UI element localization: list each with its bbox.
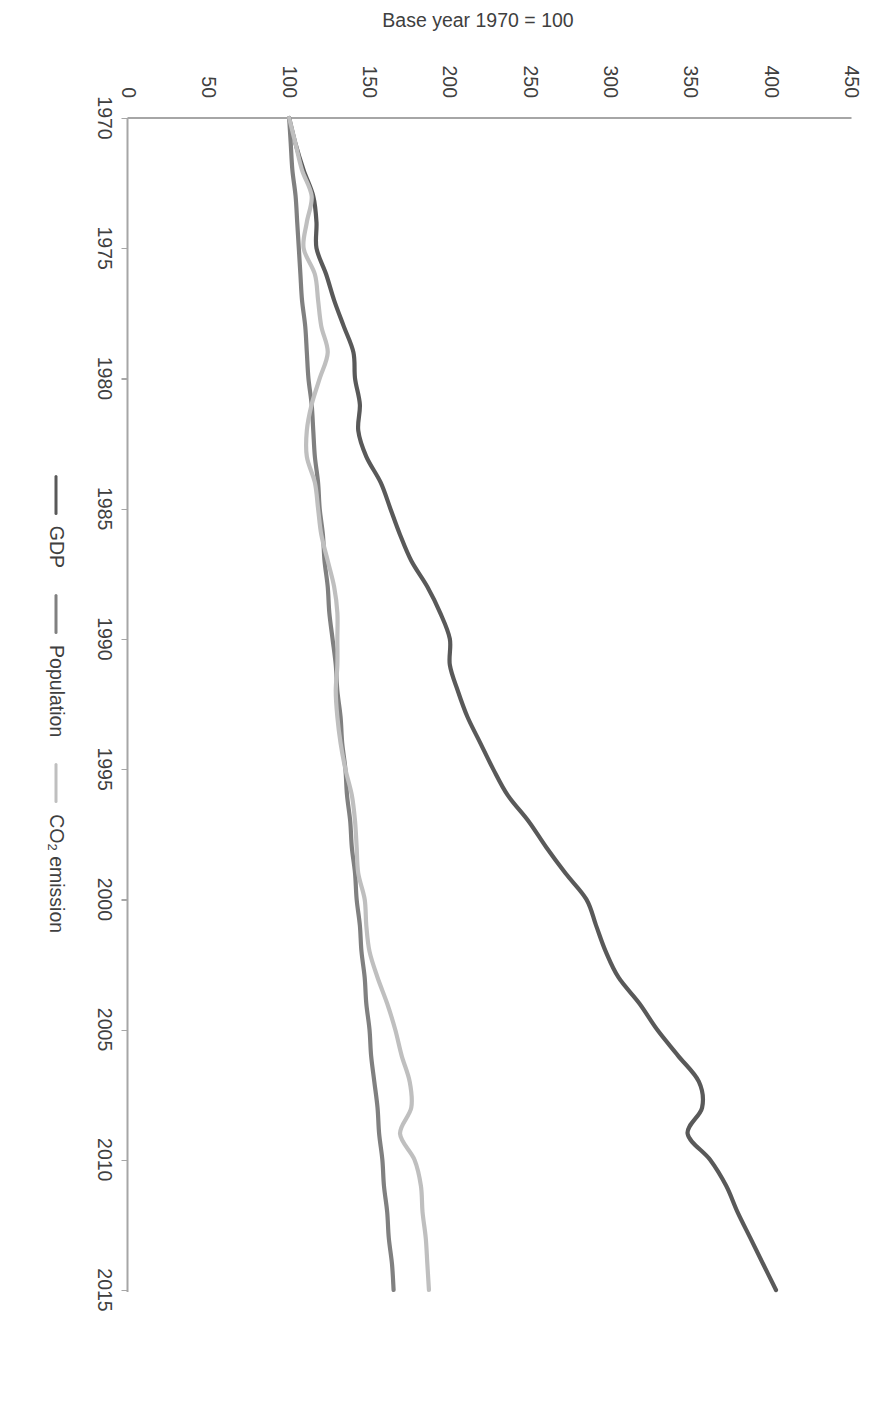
chart-legend: GDPPopulationCO2 emission xyxy=(44,118,67,1290)
x-tick-label: 1990 xyxy=(94,599,114,679)
x-tick-mark xyxy=(121,769,127,770)
x-tick-mark xyxy=(121,1290,127,1291)
legend-label: Population xyxy=(44,645,67,737)
x-tick-mark xyxy=(121,378,127,379)
legend-item[interactable]: Population xyxy=(44,594,67,737)
x-tick-label: 1995 xyxy=(94,729,114,809)
x-tick-label: 1970 xyxy=(94,78,114,158)
x-tick-mark xyxy=(121,509,127,510)
y-tick-label: 0 xyxy=(118,0,138,98)
plot-area xyxy=(128,118,851,1290)
y-axis-title: Base year 1970 = 100 xyxy=(158,9,798,32)
legend-swatch-icon xyxy=(54,594,57,634)
legend-item[interactable]: GDP xyxy=(44,475,67,568)
x-tick-label: 2010 xyxy=(94,1120,114,1200)
legend-swatch-icon xyxy=(54,763,57,803)
series-line xyxy=(289,118,776,1290)
x-tick-label: 2000 xyxy=(94,859,114,939)
series-line xyxy=(289,118,393,1290)
x-tick-label: 1975 xyxy=(94,208,114,288)
legend-item[interactable]: CO2 emission xyxy=(44,763,67,933)
x-tick-label: 1980 xyxy=(94,338,114,418)
rotated-figure-stage: 050100150200250300350400450 197019751980… xyxy=(0,0,879,1428)
legend-label: GDP xyxy=(44,526,67,568)
chart-canvas: 050100150200250300350400450 197019751980… xyxy=(0,0,879,1428)
x-tick-mark xyxy=(121,899,127,900)
x-tick-mark xyxy=(121,248,127,249)
x-tick-mark xyxy=(121,639,127,640)
series-lines xyxy=(128,118,851,1290)
x-tick-label: 1985 xyxy=(94,469,114,549)
y-tick-label: 450 xyxy=(841,0,861,98)
legend-label: CO2 emission xyxy=(44,814,67,933)
x-tick-label: 2005 xyxy=(94,990,114,1070)
x-tick-mark xyxy=(121,118,127,119)
legend-swatch-icon xyxy=(54,475,57,515)
x-tick-mark xyxy=(121,1030,127,1031)
series-line xyxy=(289,118,429,1290)
x-tick-label: 2015 xyxy=(94,1250,114,1330)
x-tick-mark xyxy=(121,1160,127,1161)
